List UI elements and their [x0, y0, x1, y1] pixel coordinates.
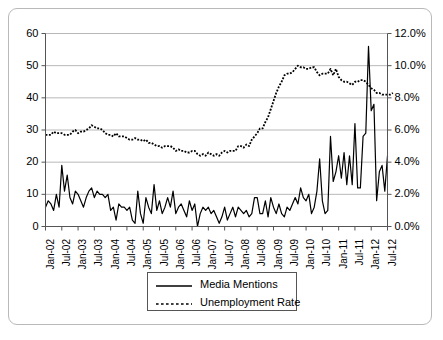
series-paths — [46, 46, 393, 226]
y-axis-right-tick-label: 10.0% — [395, 60, 426, 71]
legend-swatch-dotted-line — [156, 296, 192, 308]
chart-container: 0102030405060 0.0%2.0%4.0%6.0%8.0%10.0%1… — [0, 0, 443, 340]
tick-marks — [42, 34, 392, 231]
legend-label-unemployment-rate: Unemployment Rate — [200, 296, 300, 308]
y-axis-left-tick-label: 40 — [26, 92, 38, 103]
x-axis-tick-label: Jan-03 — [78, 239, 88, 299]
y-axis-left-tick-label: 60 — [26, 28, 38, 39]
x-axis-tick-label: Jul-04 — [127, 239, 137, 299]
y-axis-right-tick-label: 2.0% — [395, 188, 420, 199]
x-axis-tick-label: Jan-04 — [111, 239, 121, 299]
y-axis-left-tick-label: 50 — [26, 60, 38, 71]
legend-swatch-solid-line — [156, 278, 192, 290]
x-axis-tick-label: Jul-12 — [388, 239, 398, 299]
y-axis-right-tick-label: 4.0% — [395, 156, 420, 167]
x-axis-tick-label: Jul-02 — [62, 239, 72, 299]
y-axis-right-tick-label: 8.0% — [395, 92, 420, 103]
chart-legend: Media Mentions Unemployment Rate — [147, 272, 297, 311]
x-axis-tick-label: Jan-12 — [371, 239, 381, 299]
y-axis-left-tick-label: 10 — [26, 188, 38, 199]
x-axis-tick-label: Jul-11 — [355, 239, 365, 299]
y-axis-left-tick-label: 0 — [32, 221, 38, 232]
legend-label-media-mentions: Media Mentions — [200, 278, 278, 290]
legend-item-media-mentions: Media Mentions — [148, 274, 296, 293]
series-line-unemployment-rate — [46, 66, 393, 156]
x-axis-tick-label: Jan-11 — [339, 239, 349, 299]
x-axis-tick-label: Jul-03 — [94, 239, 104, 299]
y-axis-right-tick-label: 0.0% — [395, 221, 420, 232]
y-axis-right-tick-label: 6.0% — [395, 124, 420, 135]
legend-item-unemployment-rate: Unemployment Rate — [148, 292, 296, 311]
gridlines — [46, 34, 388, 227]
y-axis-left-tick-label: 20 — [26, 156, 38, 167]
series-line-media-mentions — [46, 46, 388, 226]
x-axis-tick-label: Jan-10 — [306, 239, 316, 299]
y-axis-left-tick-label: 30 — [26, 124, 38, 135]
x-axis-tick-label: Jul-10 — [322, 239, 332, 299]
y-axis-right-tick-label: 12.0% — [395, 28, 426, 39]
x-axis-tick-label: Jan-02 — [46, 239, 56, 299]
